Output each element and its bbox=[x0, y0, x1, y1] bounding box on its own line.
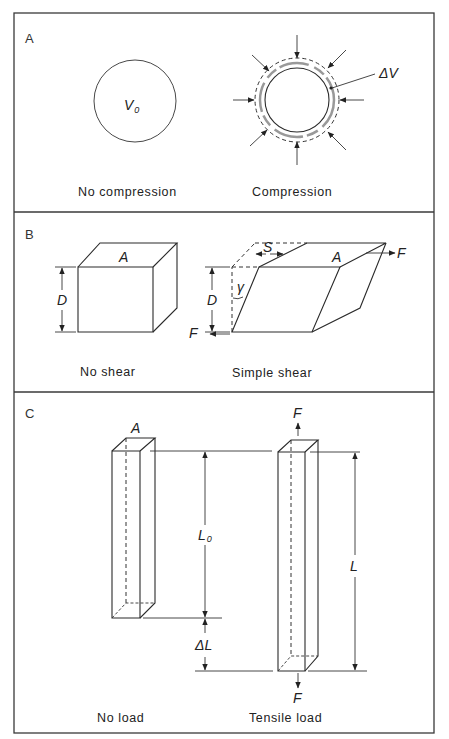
arrow-se bbox=[328, 132, 346, 150]
original-volume-outline bbox=[255, 58, 339, 142]
arrow-sw bbox=[250, 130, 267, 146]
shear-angle-label: γ bbox=[237, 279, 245, 295]
length0-label: L0 bbox=[198, 527, 212, 544]
panel-c: C A L0 ΔL F F bbox=[25, 405, 367, 725]
cube-side-face bbox=[153, 243, 177, 332]
length-label: L bbox=[350, 558, 358, 574]
cube-area-label: A bbox=[118, 249, 128, 265]
sheared-side-face bbox=[312, 243, 386, 332]
volume-label: V0 bbox=[124, 97, 139, 115]
panel-label-a: A bbox=[25, 31, 34, 46]
bar-side-face bbox=[140, 438, 155, 618]
shear-angle-arc bbox=[233, 297, 243, 299]
delta-v-label: ΔV bbox=[378, 65, 399, 81]
caption-compression: Compression bbox=[252, 185, 332, 199]
original-edge-diagonal bbox=[232, 243, 255, 267]
caption-tensile-load: Tensile load bbox=[249, 711, 322, 725]
caption-no-compression: No compression bbox=[78, 185, 177, 199]
caption-simple-shear: Simple shear bbox=[232, 366, 312, 380]
panel-label-c: C bbox=[25, 406, 34, 421]
sheared-area-label: A bbox=[331, 249, 341, 265]
sheared-front-face bbox=[232, 267, 340, 332]
tensile-force-label-top: F bbox=[293, 405, 303, 421]
loaded-bar-side-face bbox=[305, 440, 318, 671]
volume-change-shading bbox=[260, 63, 334, 137]
tensile-force-label-bottom: F bbox=[293, 690, 303, 706]
sheared-block bbox=[232, 243, 386, 332]
panel-b: B A D S A γ bbox=[25, 227, 407, 380]
cube-front-face bbox=[78, 267, 153, 332]
panel-a: A V0 ΔV No compression Compression bbox=[25, 31, 399, 199]
bar-top-face bbox=[112, 438, 155, 451]
uncompressed-sphere bbox=[94, 60, 176, 142]
compression-arrows bbox=[233, 35, 364, 165]
compressed-sphere bbox=[265, 68, 329, 132]
loaded-bar-top-face bbox=[278, 440, 318, 452]
displacement-label: S bbox=[263, 239, 273, 255]
caption-no-shear: No shear bbox=[80, 365, 136, 379]
force-label-top: F bbox=[397, 245, 407, 261]
loaded-bar bbox=[278, 440, 318, 671]
bar-area-label: A bbox=[130, 420, 140, 436]
arrow-ne bbox=[328, 50, 346, 68]
sheared-top-face bbox=[259, 243, 386, 267]
delta-l-label: ΔL bbox=[194, 637, 212, 653]
cube-depth-label: D bbox=[57, 292, 67, 308]
bar-hidden-bottom bbox=[112, 603, 155, 618]
panel-label-b: B bbox=[25, 227, 34, 242]
deformation-diagram: A V0 ΔV No compression Compression B bbox=[0, 0, 449, 739]
delta-v-leader-dot bbox=[329, 86, 332, 89]
figure-frame bbox=[14, 13, 434, 733]
sheared-depth-label: D bbox=[207, 292, 217, 308]
delta-v-leader bbox=[332, 74, 375, 88]
caption-no-load: No load bbox=[97, 711, 144, 725]
unloaded-bar bbox=[112, 438, 155, 618]
arrow-nw bbox=[252, 55, 269, 71]
force-label-bottom: F bbox=[189, 325, 199, 341]
